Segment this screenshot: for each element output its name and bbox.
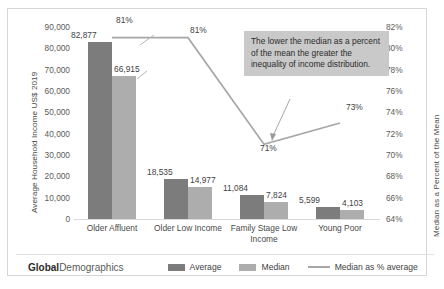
y-tick-label-left: 20,000 <box>45 171 70 181</box>
bar-group <box>150 27 226 219</box>
x-axis-label: Young Poor <box>302 223 378 257</box>
legend-divider <box>16 254 434 255</box>
legend-swatch-average <box>168 264 185 271</box>
y-tick-label-left: 30,000 <box>45 150 70 160</box>
y-tick-label-left: 60,000 <box>45 86 70 96</box>
data-label-median: 14,977 <box>190 175 216 185</box>
bar-median[interactable] <box>112 76 136 219</box>
data-label-median: 66,915 <box>114 64 140 74</box>
data-label-median: 4,103 <box>342 198 363 208</box>
y-tick-label-left: 90,000 <box>45 22 70 32</box>
brand-bold: Global <box>28 262 59 273</box>
y-tick-label-right: 72% <box>386 129 403 139</box>
bar-average[interactable] <box>164 179 188 219</box>
y-tick-label-right: 76% <box>386 86 403 96</box>
y-tick-label-left: 40,000 <box>45 129 70 139</box>
y-axis-right: 64%66%68%70%72%74%76%78%80%82% <box>386 9 426 238</box>
data-label-average: 18,535 <box>147 167 173 177</box>
brand-logo: GlobalDemographics <box>28 262 124 273</box>
legend-item-line[interactable]: Median as % average <box>308 262 418 272</box>
y-axis-left: 010,00020,00030,00040,00050,00060,00070,… <box>8 9 70 238</box>
y-tick-label-right: 66% <box>386 193 403 203</box>
y-tick-label-right: 74% <box>386 107 403 117</box>
y-tick-label-right: 64% <box>386 214 403 224</box>
bar-median[interactable] <box>264 202 288 219</box>
y-tick-label-right: 68% <box>386 171 403 181</box>
y-tick-label-left: 0 <box>65 214 70 224</box>
x-axis-categories: Older AffluentOlder Low IncomeFamily Sta… <box>74 223 378 257</box>
chart-frame: Average Household Income US$ 2019 Median… <box>7 8 427 276</box>
y-tick-label-left: 10,000 <box>45 193 70 203</box>
bar-average[interactable] <box>316 207 340 219</box>
bar-median[interactable] <box>188 187 212 219</box>
chart-legend: Average Median Median as % average <box>168 262 418 272</box>
legend-label-line: Median as % average <box>335 262 418 272</box>
data-label-average: 5,599 <box>299 195 320 205</box>
legend-swatch-median <box>239 264 256 271</box>
legend-item-average[interactable]: Average <box>168 262 222 272</box>
legend-label-median: Median <box>261 262 289 272</box>
x-axis-label: Family Stage Low Income <box>226 223 302 257</box>
brand-light: Demographics <box>59 262 123 273</box>
data-label-average: 82,877 <box>71 30 97 40</box>
y-tick-label-left: 80,000 <box>45 43 70 53</box>
bar-average[interactable] <box>240 195 264 219</box>
x-axis-label: Older Low Income <box>150 223 226 257</box>
data-label-average: 11,084 <box>223 183 248 193</box>
x-axis-line <box>74 219 380 220</box>
y-tick-label-left: 70,000 <box>45 65 70 75</box>
y-tick-label-right: 70% <box>386 150 403 160</box>
data-label-percent: 71% <box>260 143 277 153</box>
annotation-callout: The lower the median as a percent of the… <box>244 31 389 76</box>
y-axis-title-right: Median as a Percent of the Mean <box>432 115 441 237</box>
data-label-percent: 73% <box>346 102 363 112</box>
bar-group <box>74 27 150 219</box>
bar-median[interactable] <box>340 210 364 219</box>
y-tick-label-left: 50,000 <box>45 107 70 117</box>
legend-bar: GlobalDemographics Average Median Median… <box>16 256 434 278</box>
data-label-percent: 81% <box>116 15 133 25</box>
x-axis-label: Older Affluent <box>74 223 150 257</box>
legend-item-median[interactable]: Median <box>239 262 289 272</box>
legend-swatch-line <box>308 266 330 268</box>
data-label-percent: 81% <box>190 25 207 35</box>
legend-label-average: Average <box>190 262 222 272</box>
data-label-median: 7,824 <box>266 190 287 200</box>
bar-average[interactable] <box>88 42 112 219</box>
